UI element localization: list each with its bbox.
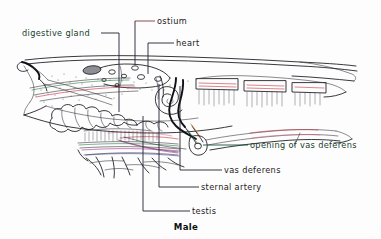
label-vas-deferens: vas deferens (224, 165, 281, 175)
label-testis: testis (192, 206, 216, 216)
label-texts: digestive gland ostium heart opening of … (22, 16, 357, 216)
label-opening-of-vas-deferens: opening of vas deferens (250, 140, 357, 150)
label-digestive-gland: digestive gland (22, 28, 90, 38)
label-ostium: ostium (157, 16, 187, 26)
digestive-gland-organ (50, 105, 168, 132)
gill-lamellae (196, 76, 346, 107)
carapace-dorsal-outline (25, 56, 357, 81)
vessel-lines-left (30, 78, 138, 105)
label-heart: heart (176, 38, 200, 48)
heart-ostia-blobs (83, 65, 162, 87)
setae-base-line (84, 129, 152, 131)
drawing-artwork (17, 56, 357, 178)
figure-caption: Male (174, 222, 198, 232)
leader-vas-deferens (180, 86, 222, 170)
leader-heart (148, 43, 174, 74)
label-sternal-artery: sternal artery (201, 182, 262, 192)
rostrum-head-region (17, 62, 48, 115)
anatomy-diagram-figure: digestive gland ostium heart opening of … (0, 0, 381, 239)
